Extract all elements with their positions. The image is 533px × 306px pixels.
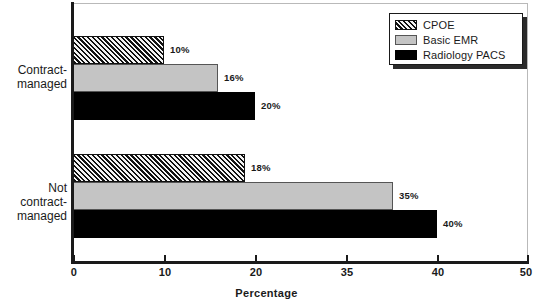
x-axis-tick-label: 10 [159, 266, 172, 278]
bar-basic-emr-contract-managed [73, 64, 218, 92]
legend-label: CPOE [423, 19, 455, 31]
bar-cpoe-not-contract-managed [73, 154, 245, 182]
x-axis-tick-label: 35 [341, 266, 354, 278]
x-axis-title: Percentage [0, 287, 533, 299]
bar-radiology-pacs-contract-managed [73, 92, 255, 120]
x-axis-line [71, 261, 529, 264]
category-label-not-contract-managed: Not contract- managed [0, 181, 67, 223]
x-axis-tick-label: 40 [432, 266, 445, 278]
bar-value-label: 35% [399, 190, 419, 201]
legend: CPOE Basic EMR Radiology PACS [389, 13, 523, 65]
x-axis-tick-label: 20 [250, 266, 263, 278]
x-axis-tick [437, 255, 439, 263]
y-axis-line [71, 2, 74, 264]
bar-chart: 10% 16% 20% 18% 35% 40% Contract- manage… [0, 0, 533, 306]
legend-item-cpoe: CPOE [395, 18, 517, 32]
bar-value-label: 20% [261, 100, 281, 111]
bar-value-label: 40% [443, 218, 463, 229]
x-axis-tick-label: 0 [71, 266, 77, 278]
x-axis-tick [73, 255, 75, 263]
bar-value-label: 18% [251, 162, 271, 173]
x-axis-tick [527, 255, 529, 263]
bar-basic-emr-not-contract-managed [73, 182, 393, 210]
category-label-contract-managed: Contract- managed [17, 63, 67, 91]
x-axis-tick [164, 255, 166, 263]
legend-item-radiology-pacs: Radiology PACS [395, 48, 517, 62]
bar-cpoe-contract-managed [73, 36, 164, 64]
legend-swatch-hatched-icon [395, 20, 417, 30]
legend-item-basic-emr: Basic EMR [395, 33, 517, 47]
legend-label: Basic EMR [423, 34, 478, 46]
x-axis-tick-label: 50 [520, 266, 533, 278]
x-axis-tick [255, 255, 257, 263]
bar-radiology-pacs-not-contract-managed [73, 210, 437, 238]
bar-value-label: 16% [224, 72, 244, 83]
legend-label: Radiology PACS [423, 49, 506, 61]
bar-value-label: 10% [170, 44, 190, 55]
legend-swatch-gray-icon [395, 35, 417, 45]
legend-swatch-black-icon [395, 50, 417, 60]
x-axis-tick [346, 255, 348, 263]
